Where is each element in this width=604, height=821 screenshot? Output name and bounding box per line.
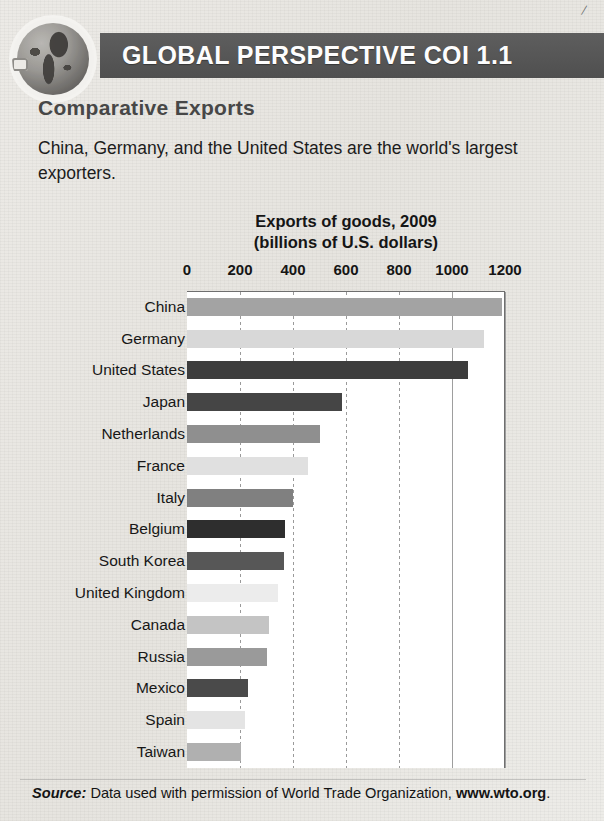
bar-label-italy: Italy [157, 489, 185, 507]
bar-label-belgium: Belgium [129, 520, 185, 538]
chart-row: Spain [0, 704, 604, 736]
footer-divider [20, 779, 586, 780]
chart-bar-rows: ChinaGermanyUnited StatesJapanNetherland… [0, 291, 604, 768]
exports-bar-chart: Exports of goods, 2009 (billions of U.S.… [0, 0, 604, 821]
bar-japan [187, 393, 342, 411]
bar-label-spain: Spain [145, 711, 185, 729]
x-axis-tick-labels: 020040060080010001200 [0, 261, 604, 283]
bar-label-mexico: Mexico [136, 679, 185, 697]
bar-south-korea [187, 552, 284, 570]
bar-label-canada: Canada [131, 616, 185, 634]
source-text: Data used with permission of World Trade… [86, 785, 456, 801]
chart-title-line1: Exports of goods, 2009 [255, 212, 437, 230]
bar-netherlands [187, 425, 320, 443]
chart-row: Russia [0, 641, 604, 673]
chart-row: France [0, 450, 604, 482]
bar-belgium [187, 520, 285, 538]
chart-row: Canada [0, 609, 604, 641]
bar-spain [187, 711, 245, 729]
bar-label-russia: Russia [138, 648, 185, 666]
bar-label-united-states: United States [92, 361, 185, 379]
chart-row: Germany [0, 323, 604, 355]
chart-row: Netherlands [0, 418, 604, 450]
x-tick-1200: 1200 [488, 261, 521, 278]
chart-row: Italy [0, 482, 604, 514]
bar-label-china: China [145, 298, 186, 316]
chart-row: South Korea [0, 545, 604, 577]
chart-title-line2: (billions of U.S. dollars) [187, 232, 505, 253]
chart-row: United States [0, 355, 604, 387]
bar-label-japan: Japan [143, 393, 185, 411]
bar-taiwan [187, 743, 241, 761]
bar-label-south-korea: South Korea [99, 552, 185, 570]
x-tick-600: 600 [333, 261, 358, 278]
bar-mexico [187, 679, 248, 697]
source-label: Source: [32, 785, 86, 801]
bar-germany [187, 330, 484, 348]
page-root: / GLOBAL PERSPECTIVE COI 1.1 Comparative… [0, 0, 604, 821]
bar-united-kingdom [187, 584, 278, 602]
chart-row: China [0, 291, 604, 323]
chart-row: Belgium [0, 514, 604, 546]
bar-label-france: France [137, 457, 185, 475]
source-period: . [546, 785, 550, 801]
bar-label-united-kingdom: United Kingdom [75, 584, 185, 602]
x-tick-0: 0 [183, 261, 191, 278]
chart-row: Japan [0, 386, 604, 418]
chart-row: Taiwan [0, 736, 604, 768]
x-tick-800: 800 [386, 261, 411, 278]
chart-row: Mexico [0, 673, 604, 705]
source-note: Source: Data used with permission of Wor… [32, 785, 592, 801]
bar-united-states [187, 361, 468, 379]
bar-russia [187, 648, 267, 666]
x-tick-200: 200 [227, 261, 252, 278]
bar-france [187, 457, 308, 475]
chart-title: Exports of goods, 2009 (billions of U.S.… [187, 211, 505, 253]
x-tick-1000: 1000 [435, 261, 468, 278]
bar-label-taiwan: Taiwan [137, 743, 185, 761]
bar-italy [187, 489, 293, 507]
bar-canada [187, 616, 269, 634]
bar-label-germany: Germany [121, 330, 185, 348]
source-url[interactable]: www.wto.org [456, 785, 546, 801]
bar-china [187, 298, 502, 316]
chart-row: United Kingdom [0, 577, 604, 609]
bar-label-netherlands: Netherlands [101, 425, 185, 443]
x-tick-400: 400 [280, 261, 305, 278]
